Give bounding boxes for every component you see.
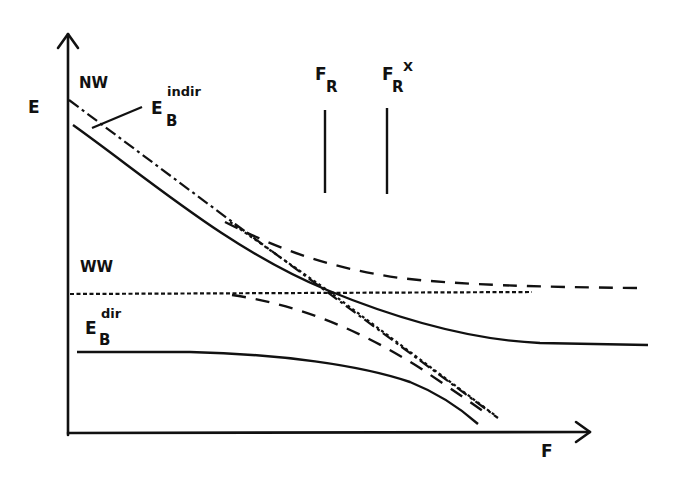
ww-label: WW [80,258,114,276]
lower-eb-dir-curve [77,352,478,424]
eb-dir-base: E [85,318,97,338]
y-axis-label: E [28,97,40,117]
axes [58,34,590,442]
x-axis [68,432,590,433]
eb-dir-sup: dir [101,306,122,321]
fr-x-sup: X [403,59,413,74]
eb-indir-base: E [151,98,163,118]
nw-label: NW [79,74,109,92]
fr-x-sub: R [392,78,404,96]
eb-indir-leader-line [92,107,142,128]
eb-dir-label: E B dir [85,306,122,349]
fr-base: F [315,64,327,84]
resonance-markers [325,108,387,194]
energy-field-diagram: E NW E B indir F R F R X WW E B dir F [0,0,675,484]
fr-x-label: F R X [382,59,413,96]
fr-label: F R [315,64,338,96]
eb-indir-sup: indir [167,84,201,99]
x-axis-label: F [541,441,553,461]
nw-diabatic-dotted-line [230,222,496,416]
eb-indir-label: E B indir [151,84,201,130]
eb-indir-sub: B [166,112,177,130]
ww-level-dotted-line [70,292,532,294]
eb-dir-sub: B [99,331,110,349]
upper-dashed-curve [225,222,638,288]
fr-sub: R [326,78,338,96]
nw-diabatic-dashdot-line [69,100,498,418]
upper-adiabatic-curve [73,125,648,345]
